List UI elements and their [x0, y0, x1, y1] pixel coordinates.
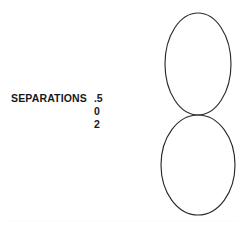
figure-canvas: SEPARATIONS .5 0 2	[0, 0, 247, 231]
contour-plot	[0, 0, 247, 231]
lower-lobe-ellipse	[161, 115, 235, 215]
upper-lobe-ellipse	[165, 13, 231, 115]
